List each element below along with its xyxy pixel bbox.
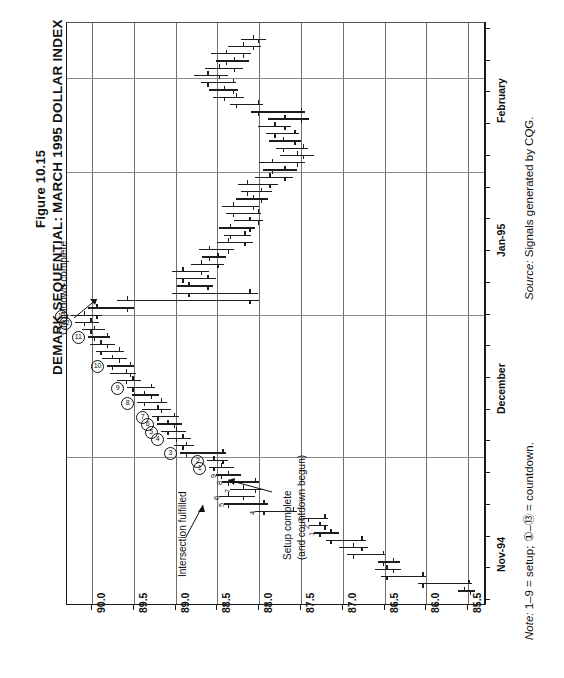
ohlc-bar-open-tick <box>107 333 108 337</box>
ohlc-bar-close-tick <box>249 300 250 304</box>
ohlc-bar-range <box>205 68 243 69</box>
ohlc-bar-open-tick <box>274 122 275 126</box>
setup-marker-6: 6 <box>213 496 221 500</box>
ohlc-bar-open-tick <box>284 166 285 170</box>
ohlc-bar-range <box>102 358 127 359</box>
ohlc-bar-close-tick <box>157 417 158 421</box>
ohlc-bar-range <box>174 445 194 446</box>
ohlc-bar-open-tick <box>258 100 259 104</box>
ohlc-bars <box>67 23 484 604</box>
ohlc-bar-range <box>219 496 255 497</box>
ohlc-bar-open-tick <box>243 42 244 46</box>
ohlc-bar-close-tick <box>233 213 234 217</box>
ohlc-bar-range <box>226 213 261 214</box>
ohlc-bar-open-tick <box>209 246 210 250</box>
ohlc-bar-close-tick <box>144 402 145 406</box>
ohlc-bar-open-tick <box>130 362 131 366</box>
date-tick-mark <box>484 60 490 61</box>
ohlc-bar-open-tick <box>303 144 304 148</box>
ohlc-bar-close-tick <box>272 170 273 174</box>
ohlc-bar-close-tick <box>167 431 168 435</box>
ohlc-bar-open-tick <box>261 188 262 192</box>
ohlc-bar-close-tick <box>233 90 234 94</box>
ohlc-bar-range <box>137 402 167 403</box>
price-tick-label: 86.5 <box>389 593 400 613</box>
ohlc-bar-close-tick <box>201 271 202 275</box>
ohlc-bar-open-tick <box>233 79 234 83</box>
ohlc-bar-close-tick <box>126 380 127 384</box>
ohlc-bar-close-tick <box>393 569 394 573</box>
price-tick-label: 88.5 <box>221 593 232 613</box>
ohlc-bar-open-tick <box>228 471 229 475</box>
ohlc-bar-open-tick <box>188 282 189 286</box>
ohlc-bar-close-tick <box>284 126 285 130</box>
annotation-intersection-fulfilled: Intersection fulfilled <box>177 491 188 577</box>
ohlc-bar-range <box>117 380 140 381</box>
ohlc-bar-open-tick <box>386 565 387 569</box>
ohlc-bar-close-tick <box>303 155 304 159</box>
ohlc-bar-open-tick <box>127 296 128 300</box>
ohlc-bar-range <box>263 169 296 170</box>
date-tick-mark <box>484 440 490 441</box>
ohlc-bar-close-tick <box>269 184 270 188</box>
ohlc-bar-open-tick <box>234 57 235 61</box>
ohlc-bar-open-tick <box>249 217 250 221</box>
ohlc-bar-close-tick <box>301 119 302 123</box>
ohlc-bar-close-tick <box>96 315 97 319</box>
ohlc-bar-close-tick <box>221 475 222 479</box>
ohlc-bar-close-tick <box>255 489 256 493</box>
ohlc-bar-close-tick <box>90 330 91 334</box>
ohlc-bar-close-tick <box>263 511 264 515</box>
ohlc-bar-range <box>172 293 258 294</box>
ohlc-bar-open-tick <box>176 427 177 431</box>
ohlc-bar-close-tick <box>308 518 309 522</box>
ohlc-bar-open-tick <box>353 543 354 547</box>
ohlc-bar-open-tick <box>253 195 254 199</box>
ohlc-bar-close-tick <box>174 424 175 428</box>
ohlc-bar-close-tick <box>228 250 229 254</box>
ohlc-bar-open-tick <box>96 304 97 308</box>
ohlc-bar-open-tick <box>464 587 465 591</box>
ohlc-bar-range <box>251 111 305 112</box>
ohlc-bar-close-tick <box>353 555 354 559</box>
ohlc-bar-range <box>157 423 182 424</box>
date-tick-mark <box>484 536 490 537</box>
ohlc-bar-close-tick <box>386 576 387 580</box>
setup-marker-1: 1 <box>308 532 316 536</box>
ohlc-bar-close-tick <box>213 467 214 471</box>
price-tick-label: 87.0 <box>347 593 358 613</box>
ohlc-bar-close-tick <box>234 68 235 72</box>
annotation-setup-complete-line2: (and countdown begun) <box>296 455 307 560</box>
ohlc-bar-open-tick <box>219 64 220 68</box>
ohlc-bar-close-tick <box>182 446 183 450</box>
ohlc-bar-range <box>378 561 400 562</box>
price-tick-mark <box>258 605 259 610</box>
ohlc-bar-open-tick <box>324 514 325 518</box>
date-tick-mark <box>484 218 490 219</box>
ohlc-bar-close-tick <box>222 460 223 464</box>
ohlc-bar-close-tick <box>224 97 225 101</box>
date-tick-mark <box>484 187 490 188</box>
ohlc-bar-open-tick <box>182 434 183 438</box>
chart-plot-area: 12345678912345678910111213 <box>66 22 484 605</box>
ohlc-bar-open-tick <box>244 231 245 235</box>
ohlc-bar-close-tick <box>258 39 259 43</box>
ohlc-bar-open-tick <box>174 413 175 417</box>
date-tick-mark <box>484 504 490 505</box>
ohlc-bar-open-tick <box>243 485 244 489</box>
setup-marker-5: 5 <box>218 503 226 507</box>
ohlc-bar-open-tick <box>284 115 285 119</box>
ohlc-bar-range <box>132 394 159 395</box>
ohlc-bar-close-tick <box>161 409 162 413</box>
price-tick-label: 85.5 <box>472 593 483 613</box>
price-tick-label: 89.5 <box>138 593 149 613</box>
ohlc-bar-range <box>191 264 224 265</box>
ohlc-bar-range <box>224 235 251 236</box>
ohlc-bar-range <box>217 242 252 243</box>
price-tick-label: 87.5 <box>305 593 316 613</box>
ohlc-bar-open-tick <box>253 35 254 39</box>
ohlc-bar-close-tick <box>130 373 131 377</box>
ohlc-bar-close-tick <box>249 228 250 232</box>
ohlc-bar-close-tick <box>243 54 244 58</box>
ohlc-bar-range <box>269 140 301 141</box>
